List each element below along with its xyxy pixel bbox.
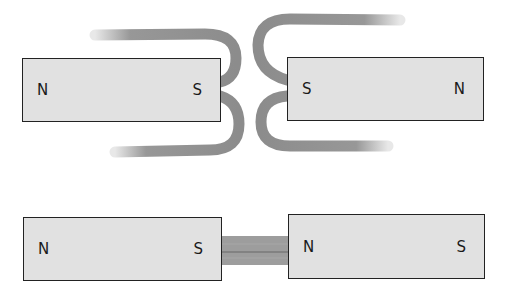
south-pole-label: S — [456, 238, 466, 256]
magnet-diagram: N S S N N S N S — [0, 0, 506, 297]
magnet-top-right: S N — [287, 57, 484, 121]
north-pole-label: N — [303, 238, 314, 256]
south-pole-label: S — [193, 240, 203, 258]
field-band-bottom — [221, 236, 288, 265]
north-pole-label: N — [37, 81, 48, 99]
south-pole-label: S — [192, 81, 202, 99]
magnet-bottom-right: N S — [288, 214, 485, 279]
north-pole-label: N — [454, 80, 465, 98]
magnet-bottom-left: N S — [23, 217, 222, 281]
north-pole-label: N — [38, 240, 49, 258]
south-pole-label: S — [302, 80, 312, 98]
magnet-top-left: N S — [22, 58, 221, 122]
